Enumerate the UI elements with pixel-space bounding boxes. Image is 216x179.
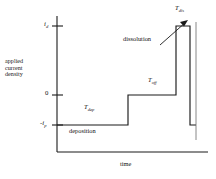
x-axis-title: time xyxy=(120,161,131,168)
segment-label-t-dep: Tdep xyxy=(84,104,94,113)
y-tick-i-p-subscript: p xyxy=(44,123,46,128)
y-axis-title-line-3: density xyxy=(5,71,53,78)
annotation-deposition: deposition xyxy=(69,128,96,135)
y-tick-label-zero: 0 xyxy=(45,89,48,96)
dissolution-arrow-shaft xyxy=(160,22,186,45)
y-axis-title: applied current density xyxy=(5,58,53,78)
t-dep-subscript: dep xyxy=(88,107,95,112)
segment-label-t-off: Toff xyxy=(148,77,157,86)
y-tick-label-i-d: id xyxy=(44,20,48,30)
segment-label-t-dis: Tdis xyxy=(175,5,184,14)
annotation-dissolution: dissolution xyxy=(123,36,151,43)
y-tick-i-d-subscript: d xyxy=(46,24,48,29)
current-density-waveform-figure: applied current density id 0 -ip Tdep To… xyxy=(0,0,216,179)
plot-canvas xyxy=(0,0,216,179)
t-off-subscript: off xyxy=(152,80,157,85)
y-tick-label-minus-i-p: -ip xyxy=(40,119,46,129)
t-dis-subscript: dis xyxy=(179,8,184,13)
